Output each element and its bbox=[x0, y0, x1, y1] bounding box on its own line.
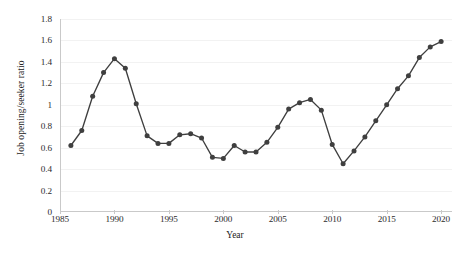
x-tick-label: 1985 bbox=[51, 214, 69, 224]
data-point bbox=[384, 102, 389, 107]
x-tick-label: 2010 bbox=[323, 214, 341, 224]
data-point bbox=[373, 118, 378, 123]
data-point bbox=[232, 143, 237, 148]
data-point bbox=[145, 133, 150, 138]
data-point bbox=[210, 155, 215, 160]
chart-figure: Job opening/seeker ratio 00.20.40.60.811… bbox=[0, 0, 470, 257]
x-tick-mark bbox=[223, 210, 224, 214]
data-point bbox=[275, 125, 280, 130]
data-point bbox=[134, 101, 139, 106]
x-tick-mark bbox=[387, 210, 388, 214]
x-tick-mark bbox=[114, 210, 115, 214]
y-tick-label: 0.4 bbox=[41, 164, 52, 174]
data-point bbox=[199, 136, 204, 141]
y-tick-label: 1.2 bbox=[41, 78, 52, 88]
x-tick-label: 2020 bbox=[432, 214, 450, 224]
data-point bbox=[243, 149, 248, 154]
plot-area bbox=[60, 19, 452, 212]
data-point bbox=[101, 70, 106, 75]
data-point bbox=[341, 161, 346, 166]
data-point bbox=[319, 108, 324, 113]
data-point bbox=[352, 148, 357, 153]
data-series bbox=[60, 19, 452, 212]
y-tick-label: 1.6 bbox=[41, 35, 52, 45]
data-point bbox=[188, 131, 193, 136]
y-axis-tick-labels: 00.20.40.60.811.21.41.61.8 bbox=[0, 19, 56, 212]
y-tick-label: 0.6 bbox=[41, 143, 52, 153]
y-tick-label: 1 bbox=[48, 100, 53, 110]
data-point bbox=[297, 100, 302, 105]
x-tick-mark bbox=[278, 210, 279, 214]
data-point bbox=[286, 107, 291, 112]
y-tick-label: 1.4 bbox=[41, 57, 52, 67]
data-point bbox=[308, 97, 313, 102]
x-tick-label: 2005 bbox=[269, 214, 287, 224]
y-tick-label: 0.2 bbox=[41, 186, 52, 196]
data-point bbox=[112, 56, 117, 61]
data-point bbox=[428, 44, 433, 49]
data-point bbox=[221, 156, 226, 161]
data-point bbox=[156, 141, 161, 146]
data-point bbox=[330, 142, 335, 147]
x-tick-label: 1995 bbox=[160, 214, 178, 224]
data-point bbox=[90, 94, 95, 99]
data-point bbox=[166, 141, 171, 146]
x-tick-mark bbox=[441, 210, 442, 214]
x-tick-mark bbox=[169, 210, 170, 214]
data-point bbox=[177, 132, 182, 137]
data-point bbox=[406, 73, 411, 78]
data-point bbox=[123, 66, 128, 71]
data-point bbox=[264, 140, 269, 145]
x-tick-label: 2015 bbox=[378, 214, 396, 224]
data-point bbox=[439, 39, 444, 44]
data-point bbox=[79, 128, 84, 133]
y-tick-label: 0.8 bbox=[41, 121, 52, 131]
data-point bbox=[254, 149, 259, 154]
data-point bbox=[362, 134, 367, 139]
data-point bbox=[417, 55, 422, 60]
x-tick-mark bbox=[60, 210, 61, 214]
x-tick-label: 2000 bbox=[214, 214, 232, 224]
data-point bbox=[68, 143, 73, 148]
data-point bbox=[395, 86, 400, 91]
x-tick-label: 1990 bbox=[105, 214, 123, 224]
x-tick-mark bbox=[332, 210, 333, 214]
x-axis-title: Year bbox=[0, 230, 470, 240]
x-axis-tick-labels: 19851990199520002005201020152020 bbox=[60, 214, 452, 230]
y-tick-label: 1.8 bbox=[41, 14, 52, 24]
